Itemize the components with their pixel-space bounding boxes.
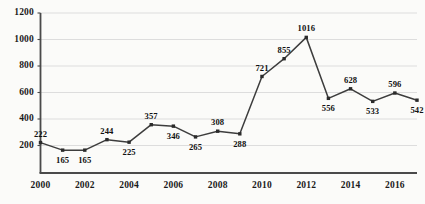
data-point-marker (327, 97, 330, 100)
y-axis-tick-label: 400 (0, 113, 34, 123)
data-point-label: 596 (378, 79, 412, 89)
data-point-marker (194, 135, 197, 138)
data-point-marker (83, 148, 86, 151)
data-point-marker (105, 138, 108, 141)
x-axis-tick-label: 2016 (375, 180, 415, 190)
line-chart: 20040060080010001200 2000200220042006200… (0, 0, 425, 204)
data-point-label: 357 (134, 111, 168, 121)
data-point-marker (39, 141, 42, 144)
data-point-label: 721 (245, 63, 279, 73)
data-point-label: 222 (24, 129, 58, 139)
y-axis-tick-label: 800 (0, 60, 34, 70)
x-axis-tick-label: 2014 (331, 180, 371, 190)
data-point-marker (371, 100, 374, 103)
chart-plot-area (0, 0, 425, 204)
data-point-marker (415, 98, 418, 101)
x-axis-tick-label: 2012 (286, 180, 326, 190)
data-point-label: 556 (311, 103, 345, 113)
data-point-marker (260, 75, 263, 78)
data-point-label: 288 (223, 139, 257, 149)
x-axis-tick-label: 2000 (21, 180, 61, 190)
data-point-label: 346 (156, 131, 190, 141)
x-axis-tick-label: 2004 (109, 180, 149, 190)
y-axis-tick-label: 1200 (0, 7, 34, 17)
data-point-marker (61, 148, 64, 151)
data-point-marker (305, 36, 308, 39)
data-point-marker (216, 129, 219, 132)
y-axis-tick-label: 1000 (0, 34, 34, 44)
data-point-marker (238, 132, 241, 135)
data-point-label: 244 (90, 126, 124, 136)
data-point-marker (349, 87, 352, 90)
data-point-label: 1016 (289, 23, 323, 33)
data-point-marker (393, 91, 396, 94)
data-point-label: 628 (334, 75, 368, 85)
data-point-marker (172, 124, 175, 127)
data-point-label: 533 (356, 106, 390, 116)
data-point-marker (282, 57, 285, 60)
data-point-label: 308 (201, 117, 235, 127)
x-axis-tick-label: 2006 (153, 180, 193, 190)
data-point-label: 542 (400, 105, 425, 115)
data-point-marker (150, 123, 153, 126)
y-axis-tick-label: 200 (0, 140, 34, 150)
data-point-label: 225 (112, 147, 146, 157)
y-axis-tick-label: 600 (0, 87, 34, 97)
x-axis-tick-label: 2008 (198, 180, 238, 190)
data-point-label: 265 (179, 142, 213, 152)
data-point-label: 855 (267, 45, 301, 55)
data-point-marker (127, 140, 130, 143)
data-point-label: 165 (68, 155, 102, 165)
x-axis-tick-label: 2010 (242, 180, 282, 190)
axis-lines (38, 13, 418, 173)
x-axis-tick-label: 2002 (65, 180, 105, 190)
